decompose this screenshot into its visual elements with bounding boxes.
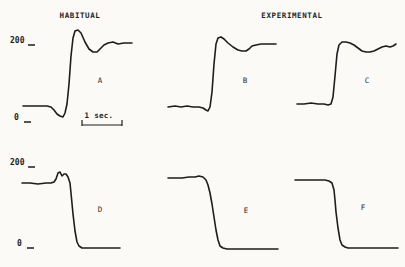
trace-f <box>295 180 398 248</box>
y-tick-label-row1-0: 0 <box>14 114 19 122</box>
y-tick-label-row2-200: 200 <box>10 159 24 167</box>
panel-label-b: B <box>243 77 248 85</box>
y-tick-label-row1-200: 200 <box>10 37 24 45</box>
trace-d <box>22 172 120 248</box>
trace-c <box>297 42 396 105</box>
panel-label-e: E <box>244 207 249 215</box>
panel-label-a: A <box>98 77 103 85</box>
trace-e <box>168 176 278 249</box>
panel-label-d: D <box>98 206 103 214</box>
figure-traces: HABITUAL EXPERIMENTAL 200 0 200 0 1 sec.… <box>0 0 405 267</box>
panel-label-f: F <box>361 204 366 212</box>
traces-svg <box>0 0 405 267</box>
column-title-experimental: EXPERIMENTAL <box>261 12 322 20</box>
scale-bar-label: 1 sec. <box>85 112 114 120</box>
panel-label-c: C <box>365 77 370 85</box>
y-tick-label-row2-0: 0 <box>17 240 22 248</box>
column-title-habitual: HABITUAL <box>60 12 101 20</box>
trace-a <box>23 30 132 117</box>
trace-b <box>168 37 276 111</box>
